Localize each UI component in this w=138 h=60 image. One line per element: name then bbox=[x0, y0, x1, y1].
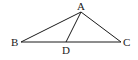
label-c: C bbox=[123, 36, 130, 48]
segment-ab bbox=[21, 12, 81, 42]
diagram-svg: A B C D bbox=[0, 0, 138, 60]
label-b: B bbox=[11, 36, 18, 48]
segment-ac bbox=[81, 12, 121, 42]
triangle-diagram: A B C D bbox=[0, 0, 138, 60]
label-d: D bbox=[62, 44, 70, 56]
segment-ad bbox=[66, 12, 81, 42]
label-a: A bbox=[77, 0, 85, 12]
